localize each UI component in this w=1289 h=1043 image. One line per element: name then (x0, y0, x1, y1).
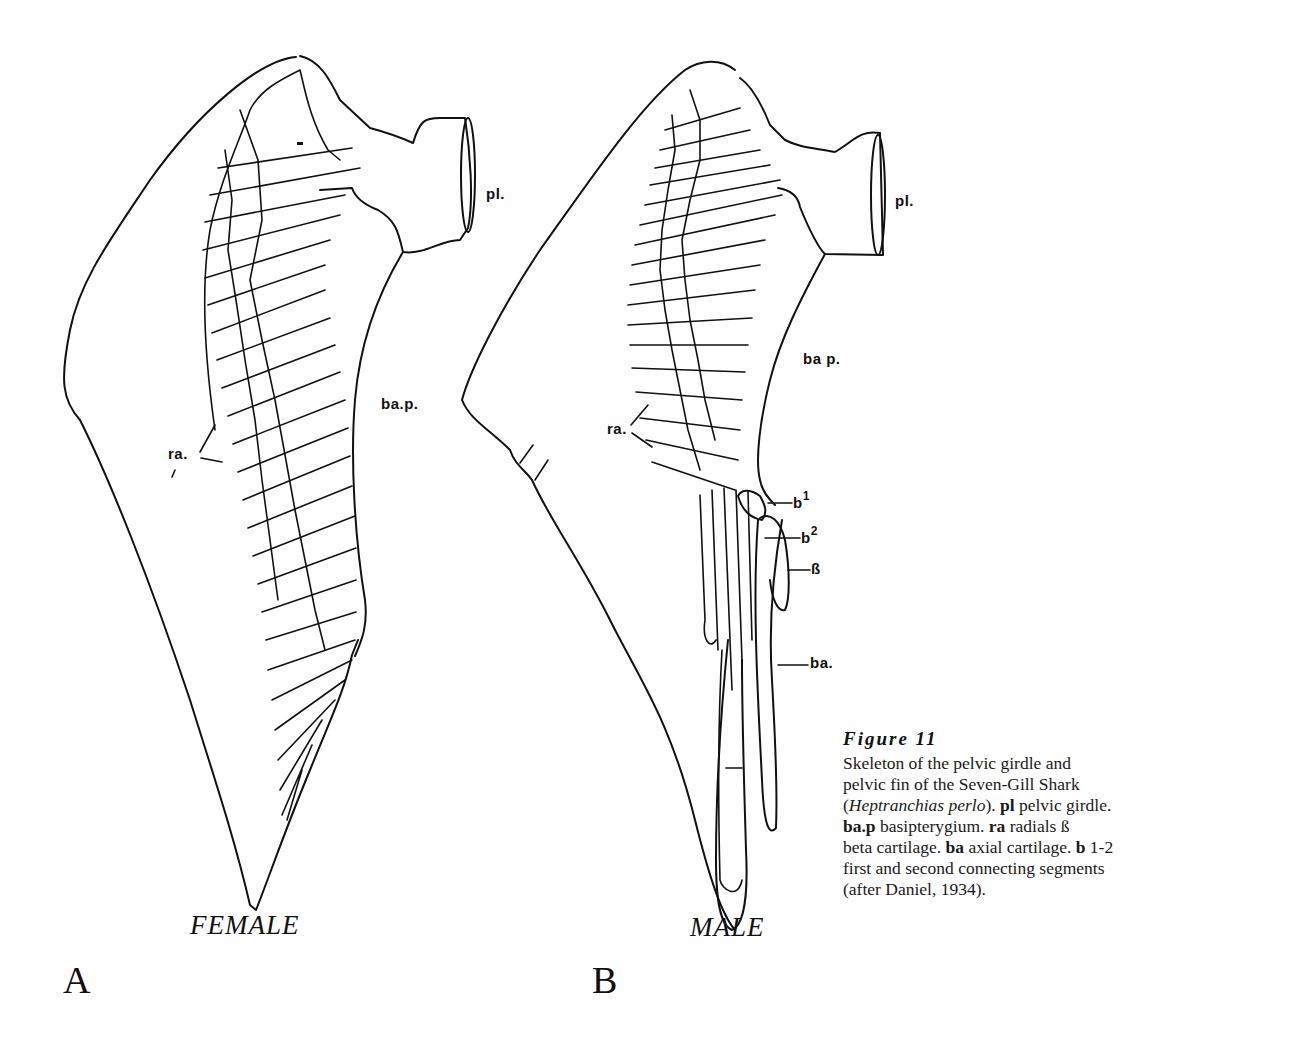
male-b2-label: b2 (801, 526, 818, 546)
female-bap-label: ba.p. (381, 395, 419, 412)
male-sex-label: MALE (690, 912, 765, 943)
female-ra-leader-1 (200, 425, 215, 452)
male-ra-label: ra. (607, 420, 627, 437)
male-axial-cartilage (755, 520, 782, 831)
male-pl-label: pl. (895, 192, 914, 209)
male-radials (628, 108, 782, 490)
caption-line-2: pelvic fin of the Seven-Gill Shark (843, 774, 1263, 795)
caption-line-7: (after Daniel, 1934). (843, 879, 1263, 900)
term-pl: pl (1000, 795, 1015, 815)
male-girdle-end (871, 135, 885, 255)
caption-line-4: ba.p basipterygium. ra radials ß (843, 816, 1263, 837)
male-b1-label: b1 (793, 491, 810, 511)
caption-line-1: Skeleton of the pelvic girdle and (843, 753, 1263, 774)
caption-line-5: beta cartilage. ba axial cartilage. b 1-… (843, 837, 1263, 858)
female-sex-label: FEMALE (190, 910, 299, 941)
male-beta-label: ß (811, 560, 821, 577)
male-ra-leader-1 (631, 405, 648, 425)
male-beta-cartilage (760, 516, 789, 610)
term-bap: ba.p (843, 816, 876, 836)
figure-caption: Figure 11 Skeleton of the pelvic girdle … (843, 728, 1263, 900)
caption-line-6: first and second connecting segments (843, 858, 1263, 879)
female-fin-outline (64, 57, 358, 910)
term-ra: ra (989, 816, 1006, 836)
female-basipterygium-edge (353, 252, 403, 656)
panel-letter-a: A (63, 958, 90, 1002)
female-radials (203, 148, 360, 820)
panel-letter-b: B (592, 958, 617, 1002)
male-ba-label: ba. (810, 654, 833, 671)
male-fin-drawing (462, 62, 885, 930)
figure-title: Figure 11 (843, 728, 1263, 750)
male-bap-label: ba p. (803, 350, 841, 367)
female-ra-leader-2 (201, 458, 222, 462)
caption-body: Skeleton of the pelvic girdle and pelvic… (843, 753, 1263, 900)
term-ba: ba (946, 837, 964, 857)
female-pl-label: pl. (486, 185, 505, 202)
caption-line-3: (Heptranchias perlo). pl pelvic girdle. (843, 795, 1263, 816)
female-pelvic-girdle (300, 56, 471, 252)
male-b1-segment (738, 491, 765, 520)
species-name: Heptranchias perlo (849, 795, 986, 815)
female-fin-drawing (64, 56, 475, 910)
male-basipterygium-edge (758, 254, 825, 505)
female-ra-label: ra. (168, 445, 188, 462)
